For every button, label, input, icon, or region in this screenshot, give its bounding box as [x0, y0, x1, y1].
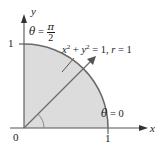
r-equals-one: = 1 [118, 44, 132, 55]
theta-symbol-max: θ [29, 25, 35, 37]
theta-min-equals: = [110, 108, 116, 119]
pi-numerator: π [47, 22, 56, 33]
polar-quarter-disk-figure: y x 0 1 1 θ = π 2 θ = 0 x2 + y2 = 1, r =… [0, 0, 162, 155]
equals-one: = 1, [92, 44, 108, 55]
y-axis-arrowhead [21, 14, 27, 23]
figure-canvas [0, 0, 162, 155]
two-denominator: 2 [47, 33, 56, 43]
y-axis-tick-label-1: 1 [8, 38, 14, 49]
theta-min-value: 0 [119, 108, 124, 119]
x-axis-tick-label-1: 1 [105, 133, 111, 144]
theta-symbol-min: θ [101, 107, 107, 119]
theta-min-label: θ = 0 [101, 108, 124, 120]
y-axis-label: y [31, 6, 36, 17]
theta-max-equals: = [38, 26, 44, 37]
r-variable: r [111, 44, 115, 55]
x-axis-label: x [150, 123, 155, 134]
plus-sign: + [73, 44, 79, 55]
x-axis-arrowhead [139, 125, 148, 131]
x-exponent: 2 [67, 43, 71, 51]
origin-label: 0 [13, 132, 19, 143]
theta-max-label: θ = π 2 [29, 22, 55, 43]
curve-equation-label: x2 + y2 = 1, r = 1 [62, 45, 132, 56]
y-exponent: 2 [86, 43, 90, 51]
pi-over-two-fraction: π 2 [47, 22, 56, 43]
